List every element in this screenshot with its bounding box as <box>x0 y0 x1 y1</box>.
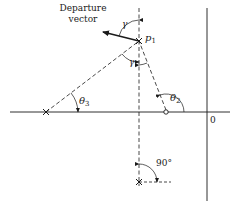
departure-vector-arrow <box>103 32 139 41</box>
origin-label: 0 <box>210 116 216 125</box>
ninety-degree-label: 90° <box>156 159 172 168</box>
dashed-line-zero-to-p1 <box>139 41 166 110</box>
zero-icon <box>164 110 168 114</box>
gamma-mid-arc-right <box>139 63 147 65</box>
dashed-line-left-pole-to-p1 <box>46 41 139 112</box>
root-locus-diagram <box>0 0 234 203</box>
departure-vector-label: Departure vector <box>58 4 108 24</box>
departure-label-line2: vector <box>58 15 108 24</box>
theta3-label-sub: 3 <box>85 100 89 108</box>
gamma-mid-label: γ <box>129 58 134 67</box>
gamma-top-label: γ <box>122 20 127 29</box>
p1-label: p1 <box>145 33 156 45</box>
theta2-label-sub: 2 <box>176 97 180 105</box>
p1-label-sub: 1 <box>151 37 155 45</box>
theta3-arc <box>71 93 78 112</box>
theta2-label: θ2 <box>170 93 181 105</box>
theta3-label: θ3 <box>79 96 90 108</box>
departure-label-line1: Departure <box>58 4 108 13</box>
